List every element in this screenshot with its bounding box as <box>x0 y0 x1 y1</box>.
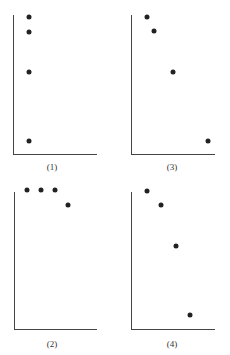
panel-label: (4) <box>167 339 178 349</box>
y-axis <box>13 15 14 154</box>
panel-label: (1) <box>47 162 58 172</box>
x-axis <box>14 329 97 330</box>
data-point <box>27 70 32 75</box>
data-point <box>152 29 157 34</box>
data-point <box>27 139 32 144</box>
data-point <box>53 188 58 193</box>
data-point <box>171 70 176 75</box>
x-axis <box>13 154 97 155</box>
data-point <box>188 313 193 318</box>
data-point <box>27 15 32 20</box>
data-point <box>25 188 30 193</box>
data-point <box>39 188 44 193</box>
data-point <box>145 189 150 194</box>
data-point <box>206 139 211 144</box>
data-point <box>145 15 150 20</box>
y-axis <box>14 192 15 329</box>
panel-label: (2) <box>47 339 58 349</box>
y-axis <box>131 15 132 154</box>
x-axis <box>131 329 215 330</box>
data-point <box>159 203 164 208</box>
data-point <box>174 244 179 249</box>
data-point <box>66 203 71 208</box>
x-axis <box>131 154 215 155</box>
panel-label: (3) <box>167 162 178 172</box>
data-point <box>27 30 32 35</box>
y-axis <box>131 192 132 329</box>
